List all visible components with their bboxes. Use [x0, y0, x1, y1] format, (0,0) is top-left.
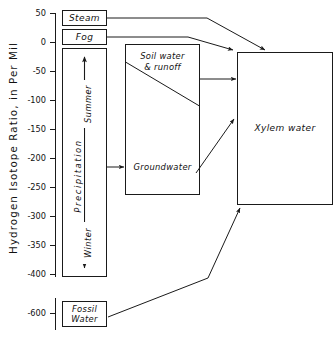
tick-label-m300: -300 — [27, 211, 46, 221]
tick-label-m100: -100 — [27, 95, 46, 105]
y-axis-title: Hydrogen Isotope Ratio, in Per Mil — [7, 42, 19, 254]
soil-water-label-line1: Soil water — [140, 51, 185, 61]
tick-label-0: 0 — [41, 37, 46, 47]
xylem-water-label: Xylem water — [253, 123, 316, 133]
precipitation-box[interactable]: Summer Winter Precipitation — [63, 49, 107, 277]
fog-box[interactable]: Fog — [63, 30, 107, 45]
isotope-flow-diagram: 50 0 -50 -100 -150 -200 -250 -300 -350 -… — [0, 0, 336, 339]
tick-label-m400: -400 — [27, 269, 46, 279]
tick-label-m200: -200 — [27, 153, 46, 163]
fossil-water-label-line2: Water — [71, 314, 98, 324]
tick-label-m600: -600 — [27, 308, 46, 318]
tick-label-m350: -350 — [27, 240, 46, 250]
soil-groundwater-box[interactable]: Soil water & runoff Groundwater — [126, 45, 200, 195]
groundwater-label: Groundwater — [133, 162, 191, 172]
precipitation-label: Precipitation — [73, 139, 83, 212]
fossil-water-label-line1: Fossil — [72, 304, 97, 314]
y-axis: 50 0 -50 -100 -150 -200 -250 -300 -350 -… — [7, 8, 56, 330]
tick-label-m150: -150 — [27, 124, 46, 134]
steam-box-label: Steam — [69, 13, 100, 23]
xylem-water-box[interactable]: Xylem water — [238, 53, 333, 205]
fog-box-label: Fog — [76, 32, 94, 42]
tick-label-50: 50 — [36, 8, 46, 18]
steam-box[interactable]: Steam — [63, 11, 107, 26]
diagram-canvas: 50 0 -50 -100 -150 -200 -250 -300 -350 -… — [0, 0, 336, 339]
winter-label: Winter — [83, 228, 93, 258]
tick-label-m50: -50 — [33, 66, 46, 76]
flow-groundwater-to-xylem — [196, 119, 234, 173]
flow-fossilwater-to-xylem — [108, 208, 240, 317]
fossil-water-box[interactable]: Fossil Water — [63, 302, 107, 327]
tick-label-m250: -250 — [27, 182, 46, 192]
summer-label: Summer — [83, 85, 93, 123]
soil-water-label-line2: & runoff — [144, 62, 181, 72]
